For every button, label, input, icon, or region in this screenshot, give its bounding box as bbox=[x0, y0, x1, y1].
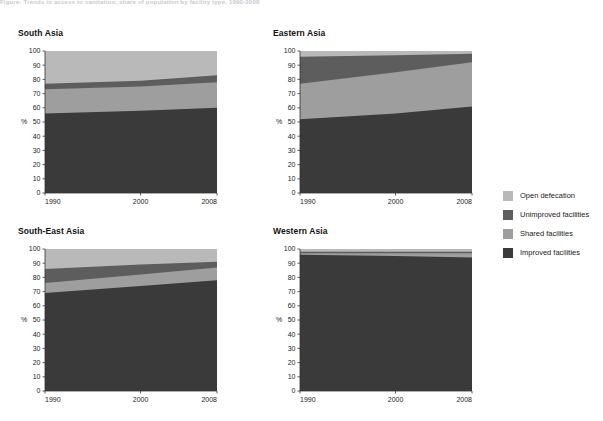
svg-text:70: 70 bbox=[33, 90, 41, 97]
legend-item-shared-facilities: Shared facilities bbox=[503, 224, 589, 243]
svg-text:90: 90 bbox=[33, 260, 41, 267]
legend-item-open-defecation: Open defecation bbox=[503, 186, 589, 205]
svg-text:%: % bbox=[276, 316, 282, 323]
svg-text:30: 30 bbox=[33, 147, 41, 154]
svg-text:60: 60 bbox=[33, 104, 41, 111]
legend-label: Unimproved facilities bbox=[520, 210, 589, 219]
panel-title: Western Asia bbox=[273, 226, 478, 236]
panel-title: South Asia bbox=[18, 28, 223, 38]
svg-text:60: 60 bbox=[288, 302, 296, 309]
svg-text:100: 100 bbox=[29, 245, 41, 252]
svg-text:0: 0 bbox=[37, 189, 41, 196]
svg-text:1990: 1990 bbox=[300, 396, 316, 403]
legend-item-improved-facilities: Improved facilities bbox=[503, 243, 589, 262]
svg-text:%: % bbox=[21, 118, 27, 125]
plot-area: 0102030405060708090100%199020002008 bbox=[273, 46, 478, 211]
svg-text:2008: 2008 bbox=[201, 396, 217, 403]
svg-text:20: 20 bbox=[33, 359, 41, 366]
svg-text:90: 90 bbox=[288, 62, 296, 69]
svg-text:0: 0 bbox=[292, 189, 296, 196]
page-header-caption: Figure: Trends in access to sanitation, … bbox=[0, 0, 603, 6]
svg-text:2000: 2000 bbox=[388, 198, 404, 205]
svg-text:50: 50 bbox=[33, 316, 41, 323]
svg-text:10: 10 bbox=[33, 373, 41, 380]
svg-text:80: 80 bbox=[288, 274, 296, 281]
svg-text:30: 30 bbox=[288, 147, 296, 154]
svg-text:100: 100 bbox=[29, 47, 41, 54]
svg-text:40: 40 bbox=[288, 133, 296, 140]
panel-title: Eastern Asia bbox=[273, 28, 478, 38]
svg-text:100: 100 bbox=[284, 47, 296, 54]
chart-panel-south-east-asia: South-East Asia 0102030405060708090100%1… bbox=[18, 226, 223, 409]
area-chart-svg: 0102030405060708090100%199020002008 bbox=[18, 244, 223, 409]
svg-text:10: 10 bbox=[33, 175, 41, 182]
area-chart-svg: 0102030405060708090100%199020002008 bbox=[273, 46, 478, 211]
svg-text:2000: 2000 bbox=[133, 396, 149, 403]
svg-text:40: 40 bbox=[33, 331, 41, 338]
svg-text:40: 40 bbox=[33, 133, 41, 140]
svg-text:2000: 2000 bbox=[388, 396, 404, 403]
plot-area: 0102030405060708090100%199020002008 bbox=[273, 244, 478, 409]
chart-panel-eastern-asia: Eastern Asia 0102030405060708090100%1990… bbox=[273, 28, 478, 211]
svg-text:40: 40 bbox=[288, 331, 296, 338]
svg-text:2000: 2000 bbox=[133, 198, 149, 205]
area-chart-svg: 0102030405060708090100%199020002008 bbox=[273, 244, 478, 409]
svg-text:0: 0 bbox=[292, 387, 296, 394]
svg-text:%: % bbox=[276, 118, 282, 125]
svg-text:60: 60 bbox=[33, 302, 41, 309]
svg-text:90: 90 bbox=[33, 62, 41, 69]
legend-swatch-shared-facilities bbox=[503, 229, 513, 239]
svg-text:20: 20 bbox=[288, 359, 296, 366]
svg-text:1990: 1990 bbox=[300, 198, 316, 205]
plot-area: 0102030405060708090100%199020002008 bbox=[18, 244, 223, 409]
svg-text:2008: 2008 bbox=[456, 396, 472, 403]
svg-text:70: 70 bbox=[288, 90, 296, 97]
svg-text:1990: 1990 bbox=[45, 198, 61, 205]
svg-text:10: 10 bbox=[288, 373, 296, 380]
svg-text:30: 30 bbox=[288, 345, 296, 352]
header-caption-text: Figure: Trends in access to sanitation, … bbox=[0, 0, 603, 6]
svg-text:70: 70 bbox=[33, 288, 41, 295]
svg-text:90: 90 bbox=[288, 260, 296, 267]
svg-text:80: 80 bbox=[33, 274, 41, 281]
legend-label: Shared facilities bbox=[520, 229, 573, 238]
legend-label: Improved facilities bbox=[520, 248, 580, 257]
legend-swatch-open-defecation bbox=[503, 191, 513, 201]
svg-text:1990: 1990 bbox=[45, 396, 61, 403]
svg-text:100: 100 bbox=[284, 245, 296, 252]
plot-area: 0102030405060708090100%199020002008 bbox=[18, 46, 223, 211]
legend-swatch-unimproved-facilities bbox=[503, 210, 513, 220]
svg-text:%: % bbox=[21, 316, 27, 323]
chart-panel-south-asia: South Asia 0102030405060708090100%199020… bbox=[18, 28, 223, 211]
svg-text:80: 80 bbox=[288, 76, 296, 83]
svg-text:50: 50 bbox=[288, 118, 296, 125]
legend-label: Open defecation bbox=[520, 191, 575, 200]
legend-swatch-improved-facilities bbox=[503, 248, 513, 258]
svg-text:50: 50 bbox=[288, 316, 296, 323]
svg-text:2008: 2008 bbox=[201, 198, 217, 205]
chart-panel-western-asia: Western Asia 0102030405060708090100%1990… bbox=[273, 226, 478, 409]
chart-legend: Open defecation Unimproved facilities Sh… bbox=[503, 186, 589, 262]
svg-text:10: 10 bbox=[288, 175, 296, 182]
svg-text:70: 70 bbox=[288, 288, 296, 295]
svg-text:20: 20 bbox=[33, 161, 41, 168]
panel-title: South-East Asia bbox=[18, 226, 223, 236]
svg-text:2008: 2008 bbox=[456, 198, 472, 205]
svg-text:80: 80 bbox=[33, 76, 41, 83]
svg-text:30: 30 bbox=[33, 345, 41, 352]
svg-text:60: 60 bbox=[288, 104, 296, 111]
legend-item-unimproved-facilities: Unimproved facilities bbox=[503, 205, 589, 224]
svg-text:20: 20 bbox=[288, 161, 296, 168]
svg-text:0: 0 bbox=[37, 387, 41, 394]
svg-text:50: 50 bbox=[33, 118, 41, 125]
area-chart-svg: 0102030405060708090100%199020002008 bbox=[18, 46, 223, 211]
